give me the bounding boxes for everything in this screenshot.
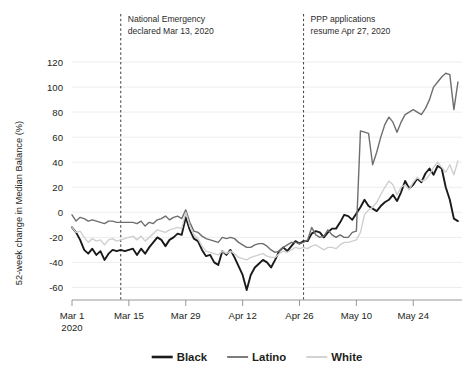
- chart-legend: BlackLatinoWhite: [152, 351, 363, 363]
- annotation-label-national-emergency: National Emergency: [128, 14, 206, 24]
- x-axis-tick-label: Apr 26: [285, 310, 313, 321]
- y-axis-tick-label: 100: [47, 82, 63, 93]
- annotation-label-national-emergency: declared Mar 13, 2020: [128, 26, 214, 36]
- y-axis-title: 52-week change in Median Balance (%): [14, 121, 24, 285]
- legend-label-latino[interactable]: Latino: [252, 351, 286, 363]
- x-axis-tick-label: Mar 15: [114, 310, 144, 321]
- y-axis-tick-label: 60: [52, 132, 63, 143]
- y-axis-tick-label: -20: [49, 232, 63, 243]
- x-axis-tick-label: Mar 1: [60, 310, 85, 321]
- y-axis-tick-label: 80: [52, 107, 63, 118]
- y-axis-tick-label: 40: [52, 157, 63, 168]
- y-axis-tick-label: -60: [49, 282, 63, 293]
- y-axis-tick-label: 120: [47, 57, 63, 68]
- annotation-label-ppp-resume: PPP applications: [311, 14, 376, 24]
- legend-label-black[interactable]: Black: [177, 351, 208, 363]
- line-chart: National Emergencydeclared Mar 13, 2020P…: [0, 0, 470, 384]
- y-axis-tick-label: -40: [49, 257, 63, 268]
- x-axis-tick-label: May 10: [341, 310, 372, 321]
- x-axis-tick-sublabel: 2020: [61, 322, 82, 333]
- annotation-label-ppp-resume: resume Apr 27, 2020: [311, 26, 391, 36]
- y-axis-tick-label: 0: [58, 207, 63, 218]
- legend-label-white[interactable]: White: [331, 351, 362, 363]
- y-axis-tick-label: 20: [52, 182, 63, 193]
- x-axis-tick-label: May 24: [398, 310, 430, 321]
- x-axis-tick-label: Apr 12: [228, 310, 256, 321]
- x-axis-tick-label: Mar 29: [171, 310, 201, 321]
- chart-container: National Emergencydeclared Mar 13, 2020P…: [0, 0, 470, 384]
